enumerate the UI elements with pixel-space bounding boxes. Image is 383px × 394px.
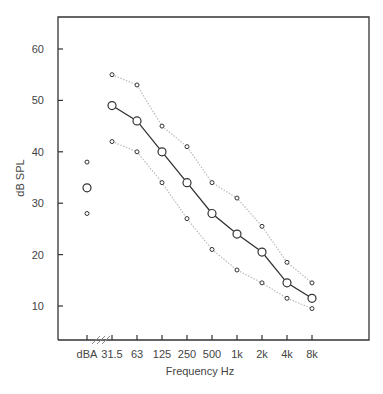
data-point-median <box>108 102 116 110</box>
data-point-lower <box>85 211 89 215</box>
x-axis-label: Frequency Hz <box>166 365 234 377</box>
data-point-median <box>133 117 141 125</box>
y-tick-label: 30 <box>32 197 44 209</box>
data-point-median <box>233 230 241 238</box>
y-tick-label: 10 <box>32 300 44 312</box>
x-tick-label: 63 <box>131 348 143 360</box>
data-point-upper <box>260 224 264 228</box>
x-tick-label: 500 <box>203 348 221 360</box>
y-tick-label: 20 <box>32 249 44 261</box>
data-point-median <box>308 294 316 302</box>
y-tick-label: 60 <box>32 43 44 55</box>
data-point-upper <box>110 73 114 77</box>
y-tick-label: 50 <box>32 94 44 106</box>
x-tick-label: 250 <box>178 348 196 360</box>
data-point-median <box>208 209 216 217</box>
data-point-lower <box>260 281 264 285</box>
data-point-lower <box>235 268 239 272</box>
x-tick-label: 4k <box>281 348 293 360</box>
y-axis-label: dB SPL <box>14 159 26 196</box>
data-point-median <box>258 248 266 256</box>
data-point-lower <box>285 296 289 300</box>
data-point-upper <box>160 124 164 128</box>
data-point-lower <box>160 181 164 185</box>
data-point-lower <box>110 140 114 144</box>
series-line-lower <box>112 142 312 309</box>
x-axis: dBA31.5631252505001k2k4k8k <box>77 335 319 360</box>
data-point-median <box>83 184 91 192</box>
x-tick-label: 31.5 <box>101 348 122 360</box>
x-tick-label: 8k <box>306 348 318 360</box>
data-point-upper <box>235 196 239 200</box>
data-series <box>83 73 316 311</box>
data-point-upper <box>310 281 314 285</box>
plot-frame <box>58 17 369 340</box>
x-tick-label: 2k <box>256 348 268 360</box>
plot-border <box>58 17 369 340</box>
data-point-upper <box>285 260 289 264</box>
data-point-lower <box>310 307 314 311</box>
series-line-median <box>112 106 312 299</box>
data-point-upper <box>210 181 214 185</box>
y-tick-label: 40 <box>32 146 44 158</box>
data-point-upper <box>85 160 89 164</box>
data-point-median <box>183 179 191 187</box>
data-point-lower <box>185 217 189 221</box>
chart: 102030405060 dBA31.5631252505001k2k4k8k … <box>0 0 383 394</box>
x-tick-label: 1k <box>231 348 243 360</box>
data-point-lower <box>135 150 139 154</box>
data-point-median <box>158 148 166 156</box>
data-point-median <box>283 279 291 287</box>
data-point-upper <box>185 145 189 149</box>
data-point-lower <box>210 247 214 251</box>
data-point-upper <box>135 83 139 87</box>
x-tick-label: 125 <box>153 348 171 360</box>
x-tick-label: dBA <box>77 348 98 360</box>
